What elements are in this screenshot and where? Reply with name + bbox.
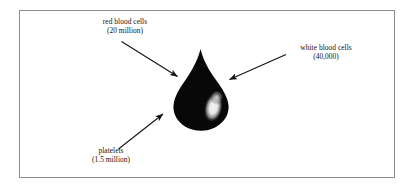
callout-white-blood-cells-count: (40,000) (272, 52, 380, 61)
screenshot-root: red blood cells (20 million) white blood… (0, 0, 414, 191)
arrow-red-blood-cells (122, 42, 178, 77)
callout-white-blood-cells: white blood cells (40,000) (272, 43, 380, 61)
callout-red-blood-cells-name: red blood cells (72, 17, 178, 26)
callout-red-blood-cells: red blood cells (20 million) (72, 17, 178, 35)
arrow-platelets (119, 114, 164, 149)
blood-drop-highlight-secondary (210, 90, 224, 105)
callout-red-blood-cells-count: (20 million) (72, 26, 178, 35)
blood-drop-icon (173, 49, 228, 131)
callout-white-blood-cells-name: white blood cells (272, 43, 380, 52)
callout-platelets-name: platelets (63, 146, 159, 155)
callout-platelets-count: (1.5 million) (63, 155, 159, 164)
callout-platelets: platelets (1.5 million) (63, 146, 159, 164)
